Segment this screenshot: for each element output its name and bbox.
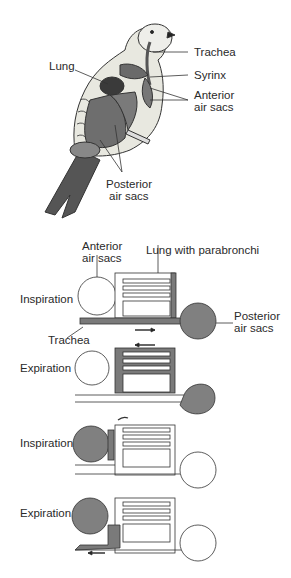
label-stage-2: Expiration [20,362,71,375]
label-lung: Lung [49,60,75,73]
label-stage-3: Inspiration [20,437,73,450]
panel-expiration-1 [75,343,215,414]
label-trachea: Trachea [194,46,236,59]
label-posterior-2: air sacs [109,190,149,203]
label-anterior-2: air sacs [194,101,234,114]
label-lung-parabronchi: Lung with parabronchi [146,244,259,257]
panel-expiration-2 [72,498,216,561]
label-cycle-trachea: Trachea [48,334,90,347]
label-syrinx: Syrinx [194,69,226,82]
panel-inspiration-2 [73,417,216,488]
diagram-canvas [0,0,291,578]
label-cycle-anterior-2: air sacs [82,252,122,265]
label-stage-4: Expiration [20,507,71,520]
label-cycle-posterior-2: air sacs [234,322,274,335]
label-stage-1: Inspiration [20,293,73,306]
